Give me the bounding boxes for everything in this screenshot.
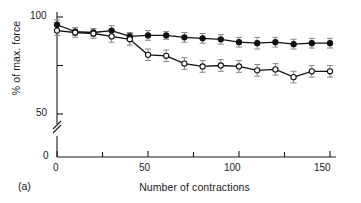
y-axis-label: % of max. force [10,0,22,118]
x-tick-label-0: 0 [53,162,59,173]
figure-panel-a: % of max. force Number of contractions (… [0,0,361,203]
y-tick-label-50: 50 [36,107,47,118]
x-tick-label-50: 50 [139,162,150,173]
x-tick-label-100: 100 [224,162,241,173]
error-bars [54,20,333,83]
data-lines [57,25,330,77]
x-axis-label: Number of contractions [57,181,332,193]
panel-label: (a) [18,180,31,192]
y-tick-label-0: 0 [43,150,49,161]
x-tick-label-150: 150 [314,162,331,173]
y-tick-label-100: 100 [30,10,47,21]
